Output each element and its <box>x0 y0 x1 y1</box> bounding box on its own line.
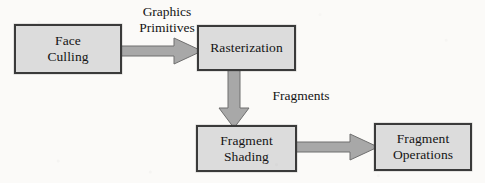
edge-label-fragments: Fragments <box>258 88 344 104</box>
arrow-graphics-primitives <box>116 36 202 66</box>
arrow-fragment-shading-to-operations <box>294 132 378 162</box>
node-face-culling-label: Face Culling <box>47 33 88 65</box>
arrow-fragments <box>216 68 252 128</box>
node-fragment-operations-label: Fragment Operations <box>393 131 453 163</box>
node-fragment-shading-label: Fragment Shading <box>220 133 273 165</box>
edge-label-graphics-primitives: Graphics Primitives <box>120 4 214 36</box>
node-fragment-operations: Fragment Operations <box>374 123 472 171</box>
node-fragment-shading: Fragment Shading <box>196 125 297 172</box>
node-rasterization-label: Rasterization <box>210 40 283 56</box>
node-face-culling: Face Culling <box>14 24 122 74</box>
diagram-canvas: Face Culling Rasterization Fragment Shad… <box>0 0 485 183</box>
